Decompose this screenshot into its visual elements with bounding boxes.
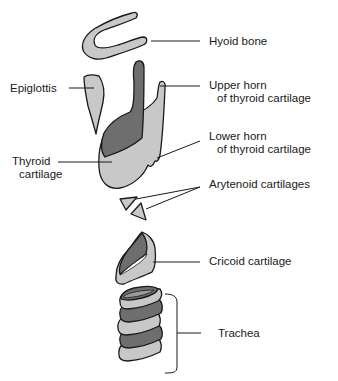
- arytenoid-leader-2: [146, 187, 200, 209]
- label-upper-horn-line1: Upper horn: [209, 79, 267, 91]
- label-thyroid-line1: Thyroid: [12, 155, 50, 167]
- label-epiglottis: Epiglottis: [10, 82, 57, 94]
- label-arytenoid: Arytenoid cartilages: [209, 178, 310, 190]
- label-thyroid-line2: cartilage: [19, 168, 62, 180]
- epiglottis-shape: [84, 75, 104, 134]
- trachea-shape: [118, 287, 162, 361]
- label-lower-horn-line1: Lower horn: [209, 130, 267, 142]
- lower-horn-leader: [157, 141, 200, 158]
- larynx-diagram: Hyoid bone Epiglottis Upper horn of thyr…: [0, 0, 338, 381]
- arytenoid-leader-1: [136, 187, 200, 199]
- label-hyoid-bone: Hyoid bone: [209, 35, 267, 47]
- trachea-bracket: [165, 294, 177, 373]
- label-lower-horn-line2: of thyroid cartilage: [217, 143, 311, 155]
- label-cricoid: Cricoid cartilage: [209, 255, 291, 267]
- arytenoid-left-shape: [120, 197, 137, 210]
- hyoid-bone-shape: [82, 12, 146, 59]
- label-trachea: Trachea: [218, 327, 260, 339]
- label-upper-horn-line2: of thyroid cartilage: [217, 92, 311, 104]
- arytenoid-right-shape: [131, 203, 146, 220]
